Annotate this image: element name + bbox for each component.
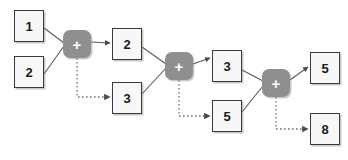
value-box-sum1[interactable]: 2 (112, 28, 142, 60)
operator-node-plus-1[interactable]: + (63, 30, 91, 58)
diagram-canvas: 1 2 + 2 3 + 3 5 + 5 8 (0, 0, 348, 160)
edge-sum1-plus2 (142, 47, 166, 64)
edge-plus3-sum3 (290, 67, 308, 80)
edge-plus1-sum1 (91, 42, 110, 43)
operator-node-plus-3[interactable]: + (262, 69, 290, 97)
edge-in1-plus1 (44, 28, 64, 43)
edge-plus2-carry2 (179, 80, 210, 116)
operator-node-plus-2[interactable]: + (165, 52, 193, 80)
edge-plus2-sum2 (193, 58, 210, 64)
value-box-sum3[interactable]: 5 (310, 52, 340, 84)
value-box-carry2[interactable]: 5 (212, 100, 242, 132)
edge-carry1-plus2 (142, 68, 166, 94)
edge-sum2-plus3 (242, 70, 263, 81)
value-box-carry3[interactable]: 8 (310, 113, 340, 145)
edge-plus3-carry3 (276, 97, 308, 129)
value-box-sum2[interactable]: 3 (212, 50, 242, 82)
edge-in2-plus1 (44, 46, 64, 74)
edge-carry2-plus3 (242, 86, 263, 112)
value-box-in1[interactable]: 1 (14, 10, 44, 42)
edge-layer (0, 0, 348, 160)
value-box-in2[interactable]: 2 (14, 56, 44, 88)
edge-plus1-carry1 (77, 58, 110, 97)
value-box-carry1[interactable]: 3 (112, 82, 142, 114)
